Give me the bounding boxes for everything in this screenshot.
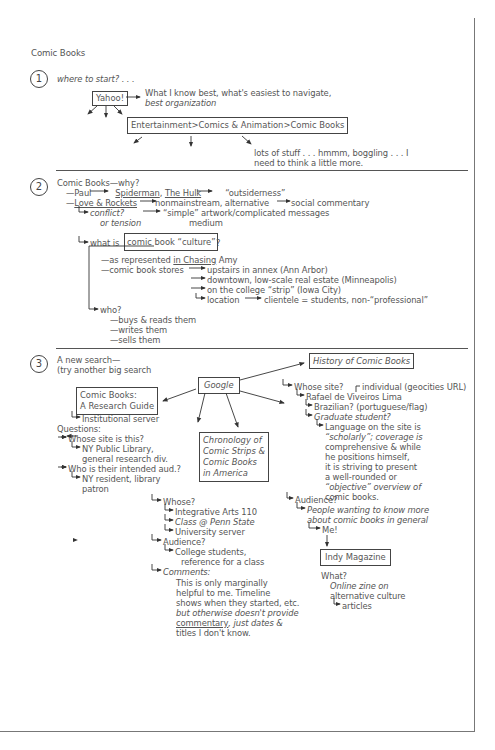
section-3-heading-line2: (try another big search: [57, 365, 151, 375]
chron-comments: Comments:: [163, 567, 210, 577]
what-is-label: what is: [90, 238, 119, 248]
guide-box-line2: A Research Guide: [80, 401, 154, 412]
who-label: who?: [100, 305, 121, 315]
history-audience: Audience?: [295, 495, 337, 505]
question-2: Who is their intended aud.?: [68, 464, 181, 474]
paul-label: —Paul: [66, 188, 91, 198]
guide-box-line1: Comic Books:: [80, 390, 154, 401]
culture-question: ?: [216, 238, 220, 248]
yahoo-note-line1: What I know best, what's easiest to navi…: [145, 88, 331, 98]
history-audience-item: about comic books in general: [307, 515, 428, 525]
nonmainstream-label: nonmainstream, alternative: [155, 198, 269, 208]
language-line: comprehensive & while: [325, 442, 421, 452]
question-1: Whose site is this?: [68, 434, 144, 444]
page-title: Comic Books: [31, 48, 85, 58]
section-divider-2: [56, 348, 468, 349]
who-item: —writes them: [110, 325, 167, 335]
yahoo-note-line2: best organization: [145, 98, 216, 108]
answer-1-line2: general research div.: [82, 454, 168, 464]
simple-artwork-label: “simple” artwork/complicated messages: [163, 208, 329, 218]
history-individual: individual (geocities URL): [362, 382, 466, 392]
section-2-heading: Comic Books—why?: [57, 178, 139, 188]
store-item: location: [207, 295, 239, 305]
history-box: History of Comic Books: [309, 353, 414, 369]
chasing-amy-title: in Chasing: [173, 255, 216, 265]
comment-line: but otherwise doesn't provide: [176, 608, 298, 618]
questions-label: Questions:: [57, 424, 101, 434]
chron-line: Comic Books: [203, 457, 265, 468]
indy-articles: articles: [342, 601, 372, 611]
answer-1-line1: NY Public Library,: [82, 444, 154, 454]
comment-line: This is only marginally: [176, 578, 268, 588]
page-frame-right: [474, 18, 475, 731]
section-number-1: 1: [30, 70, 48, 88]
chron-audience: Audience?: [163, 537, 205, 547]
institutional-server: Institutional server: [82, 414, 159, 424]
chron-whose-item: Integrative Arts 110: [175, 507, 257, 517]
category-path-box: Entertainment>Comics & Animation>Comic B…: [127, 117, 348, 134]
language-line: “objective” overview of: [325, 482, 421, 492]
chron-line: Chronology of: [203, 435, 265, 446]
clientele-label: clientele = students, non-“professional”: [264, 295, 428, 305]
social-commentary-label: social commentary: [291, 198, 369, 208]
section-divider-1: [56, 170, 468, 171]
amy-suffix: Amy: [216, 255, 237, 265]
language-line: a well-rounded or: [325, 472, 397, 482]
comma: ,: [160, 188, 163, 198]
section-1-heading: where to start? . . .: [57, 74, 134, 84]
research-guide-box: Comic Books: A Research Guide: [76, 387, 158, 415]
history-me: Me!: [322, 525, 337, 535]
comment-line-commentary: commentary, just dates &: [176, 618, 283, 628]
comment-line: shows when they started, etc.: [176, 598, 299, 608]
answer-2-line2: patron: [82, 484, 109, 494]
who-item: —sells them: [110, 335, 160, 345]
represented-prefix: —as represented: [101, 255, 173, 265]
chron-whose-item: Class @ Penn State: [175, 517, 255, 527]
chron-audience-item: College students,: [175, 547, 246, 557]
indy-what: What?: [321, 571, 347, 581]
outsiderness-label: “outsiderness”: [225, 188, 285, 198]
represented-line: —as represented in Chasing Amy: [101, 255, 237, 265]
who-item: —buys & reads them: [110, 315, 196, 325]
category-note-line1: lots of stuff . . . hmmm, boggling . . .…: [254, 148, 408, 158]
language-line: it is striving to present: [325, 462, 417, 472]
chron-audience-item: reference for a class: [181, 557, 264, 567]
stores-label: —comic book stores: [101, 265, 184, 275]
chron-whose-item: University server: [175, 527, 245, 537]
comic-culture-box: comic book “culture”: [124, 233, 218, 251]
chron-whose: Whose?: [163, 497, 195, 507]
store-item: downtown, low-scale real estate (Minneap…: [207, 275, 397, 285]
history-grad: Graduate student?: [314, 412, 391, 422]
history-audience-item: People wanting to know more: [307, 505, 429, 515]
medium-label: medium: [189, 218, 223, 228]
indy-desc: Online zine on: [330, 581, 389, 591]
chron-line: Comic Strips &: [203, 446, 265, 457]
store-item: on the college “strip” (Iowa City): [207, 285, 341, 295]
paul-line: —PaulSpiderman, The Hulk“outsiderness”: [66, 188, 285, 198]
section-number-3: 3: [30, 355, 48, 373]
language-line: “scholarly”; coverage is: [325, 432, 423, 442]
language-line: he positions himself,: [325, 452, 409, 462]
answer-2-line1: NY resident, library: [82, 474, 160, 484]
comment-rest: , just dates &: [228, 618, 282, 628]
conflict-label: conflict?: [90, 208, 124, 218]
history-brazilian: Brazilian? (portuguese/flag): [314, 402, 427, 412]
section-3-heading-line1: A new search—: [57, 355, 120, 365]
love-rockets-line: —Love & Rocketsnonmainstream, alternativ…: [66, 198, 369, 208]
language-line: Language on the site is: [325, 422, 421, 432]
yahoo-box: Yahoo!: [92, 91, 128, 106]
google-box: Google: [198, 377, 240, 394]
commentary-underlined: commentary: [176, 618, 228, 628]
love-rockets-title: Love & Rockets: [74, 198, 137, 208]
comment-line: helpful to me. Timeline: [176, 588, 270, 598]
indy-magazine-box: Indy Magazine: [320, 549, 391, 566]
hulk-label: The Hulk: [165, 188, 201, 198]
history-name: Rafael de Viveiros Lima: [306, 392, 402, 402]
chron-line: in America: [203, 468, 265, 479]
history-whose: Whose site?: [294, 382, 343, 392]
page-frame-bottom: [0, 731, 475, 732]
spiderman-label: Spiderman: [115, 188, 159, 198]
section-number-2: 2: [30, 178, 48, 196]
comment-line: titles I don't know.: [176, 628, 251, 638]
indy-desc: alternative culture: [330, 591, 405, 601]
